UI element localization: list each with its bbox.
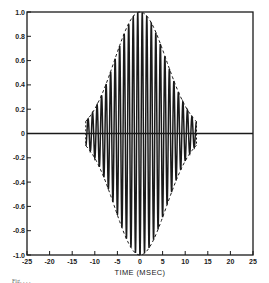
x-tick-label: -5 <box>114 258 120 265</box>
y-axis: 1.00.80.60.40.20-0.2-0.4-0.6-0.8-1.0 <box>13 9 31 259</box>
x-tick-label: -10 <box>90 258 100 265</box>
y-tick-label: -0.8 <box>13 227 25 234</box>
y-tick-label: 0 <box>21 130 25 137</box>
y-tick-label: 0.2 <box>15 106 25 113</box>
waveform-line <box>86 13 197 255</box>
x-tick-label: -15 <box>67 258 77 265</box>
waveform <box>86 13 197 255</box>
figure-caption: Fig. . . . <box>12 278 31 283</box>
y-tick-label: 1.0 <box>15 9 25 16</box>
x-tick-label: 0 <box>138 258 142 265</box>
x-tick-label: 20 <box>227 258 235 265</box>
chart: 1.00.80.60.40.20-0.2-0.4-0.6-0.8-1.0 -25… <box>0 0 269 283</box>
x-tick-label: -25 <box>22 258 32 265</box>
y-tick-label: -0.2 <box>13 154 25 161</box>
x-tick-label: -20 <box>45 258 55 265</box>
x-axis-label: TIME (MSEC) <box>114 268 165 277</box>
y-tick-label: 0.8 <box>15 33 25 40</box>
y-tick-label: 0.6 <box>15 57 25 64</box>
x-tick-label: 15 <box>204 258 212 265</box>
y-tick-label: -0.6 <box>13 203 25 210</box>
x-tick-label: 10 <box>181 258 189 265</box>
x-tick-label: 25 <box>249 258 257 265</box>
y-tick-label: 0.4 <box>15 81 25 88</box>
x-tick-label: 5 <box>161 258 165 265</box>
y-tick-label: -0.4 <box>13 179 25 186</box>
